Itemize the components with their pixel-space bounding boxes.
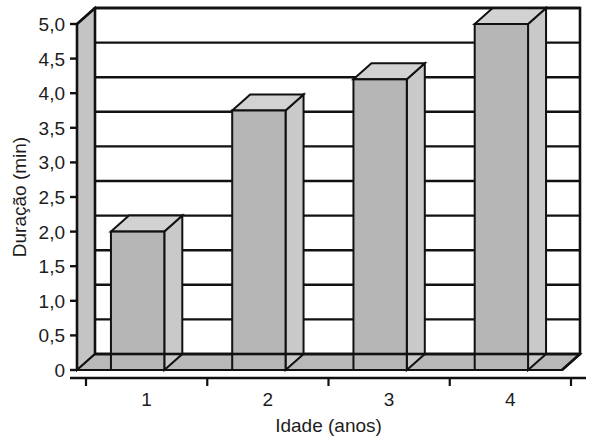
y-tick-label: 3,0 [39,152,65,173]
y-tick-label: 1,0 [39,291,65,312]
bar-side-face [528,8,546,370]
y-tick-label: 1,5 [39,256,65,277]
bar-front-face [111,232,164,370]
x-axis-title: Idade (anos) [275,415,382,436]
y-tick-label: 5,0 [39,14,65,35]
left-wall-face [77,8,95,370]
bar [111,216,182,370]
bar-side-face [407,63,425,370]
x-tick-label: 1 [141,389,152,410]
bar [353,63,424,370]
bar-chart: 00,51,01,52,02,53,03,54,04,55,0 1234 Dur… [0,0,601,442]
x-tick-label: 2 [263,389,274,410]
y-tick-label: 4,0 [39,83,65,104]
y-tick-label: 2,5 [39,187,65,208]
x-tick-label: 4 [505,389,516,410]
y-tick-label: 0,5 [39,325,65,346]
y-tick-label: 4,5 [39,49,65,70]
bar-front-face [232,111,285,371]
bar-front-face [475,24,528,370]
y-tick-label: 3,5 [39,118,65,139]
bar-side-face [164,216,182,370]
bar [232,95,303,371]
y-tick-label: 2,0 [39,222,65,243]
chart-canvas: 00,51,01,52,02,53,03,54,04,55,0 1234 Dur… [0,0,601,442]
axis-wall-3d [77,8,95,370]
x-tick-label: 3 [384,389,395,410]
bar-front-face [353,79,406,370]
bar [475,8,546,370]
y-axis-title: Duração (min) [9,137,30,257]
bar-side-face [286,95,304,371]
y-tick-label: 0 [54,360,65,381]
